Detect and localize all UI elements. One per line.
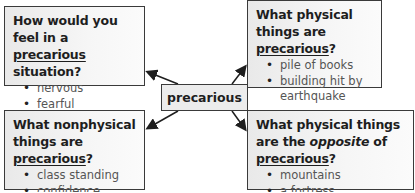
central-word: precarious	[161, 84, 248, 111]
question-nonphysical: What nonphysical things are precarious?	[13, 116, 136, 167]
box-opposite: What physical things are the opposite of…	[247, 110, 414, 190]
box-feelings: How would you feel in a precarious situa…	[4, 6, 145, 86]
question-opposite: What physical things are the opposite of…	[256, 116, 405, 167]
arrow-top-right	[232, 67, 245, 84]
answer-list-opposite: mountains a fortress	[256, 168, 405, 192]
answer-list-feelings: nervous fearful	[13, 81, 136, 112]
list-item: building hit by earthquake	[266, 74, 373, 105]
list-item: mountains	[266, 168, 405, 184]
list-item: confidence	[23, 184, 136, 193]
arrow-top-left	[148, 72, 178, 84]
box-nonphysical-things: What nonphysical things are precarious? …	[4, 110, 145, 190]
arrow-bottom-left	[148, 111, 178, 128]
question-feelings: How would you feel in a precarious situa…	[13, 12, 136, 80]
list-item: nervous	[23, 81, 136, 97]
box-physical-things: What physical things are precarious? pil…	[247, 0, 382, 88]
answer-list-physical: pile of books building hit by earthquake	[256, 58, 373, 105]
list-item: a fortress	[266, 184, 405, 193]
list-item: pile of books	[266, 58, 373, 74]
list-item: class standing	[23, 168, 136, 184]
arrow-bottom-right	[232, 111, 245, 129]
question-physical: What physical things are precarious?	[256, 6, 373, 57]
answer-list-nonphysical: class standing confidence	[13, 168, 136, 192]
